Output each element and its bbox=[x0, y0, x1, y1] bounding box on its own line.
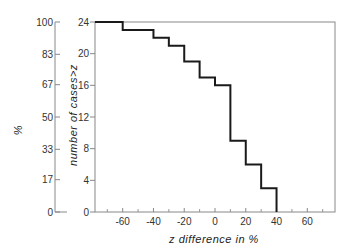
secondary-y-tick-label: 67 bbox=[42, 79, 54, 90]
y-tick-label: 12 bbox=[78, 112, 90, 123]
x-tick-label: -40 bbox=[146, 216, 161, 227]
x-tick-label: 40 bbox=[271, 216, 283, 227]
x-tick-label: 0 bbox=[212, 216, 218, 227]
x-tick-label: -60 bbox=[115, 216, 130, 227]
y-axis-title: number of cases>z bbox=[67, 64, 79, 166]
secondary-y-tick-label: 100 bbox=[36, 17, 53, 28]
secondary-y-axis-title: % bbox=[12, 125, 24, 135]
secondary-y-tick-label: 33 bbox=[42, 144, 54, 155]
y-tick-label: 24 bbox=[78, 17, 90, 28]
x-axis-title: z difference in % bbox=[168, 233, 259, 245]
plot-frame bbox=[95, 22, 335, 212]
step-series-line bbox=[95, 22, 277, 212]
secondary-y-tick-label: 83 bbox=[42, 49, 54, 60]
secondary-y-tick-label: 17 bbox=[42, 174, 54, 185]
x-tick-label: -20 bbox=[177, 216, 192, 227]
y-tick-label: 16 bbox=[78, 80, 90, 91]
secondary-y-tick-label: 50 bbox=[42, 112, 54, 123]
primary-count-axis: 04812162024 bbox=[78, 17, 95, 218]
y-tick-label: 8 bbox=[83, 143, 89, 154]
x-tick-label: 60 bbox=[302, 216, 314, 227]
secondary-y-tick-label: 0 bbox=[47, 207, 53, 218]
y-tick-label: 20 bbox=[78, 48, 90, 59]
step-chart: 01733506783100 04812162024 -60-40-200204… bbox=[0, 0, 351, 250]
secondary-percent-axis: 01733506783100 bbox=[36, 17, 67, 218]
y-tick-label: 0 bbox=[83, 207, 89, 218]
y-tick-label: 4 bbox=[83, 175, 89, 186]
x-tick-label: 20 bbox=[240, 216, 252, 227]
x-axis: -60-40-200204060 bbox=[107, 208, 322, 227]
